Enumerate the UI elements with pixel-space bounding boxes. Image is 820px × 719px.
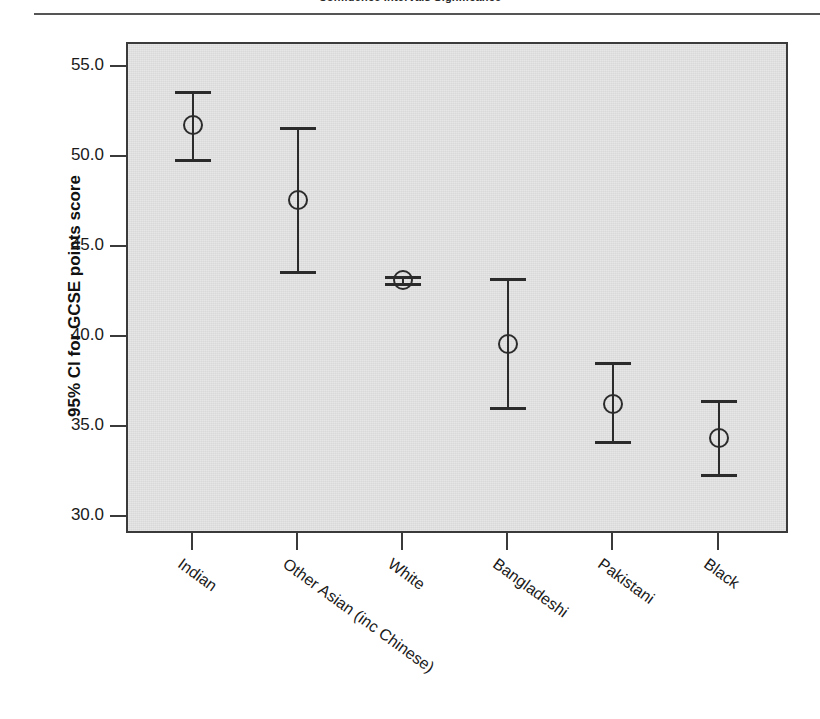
panel-texture <box>128 44 786 531</box>
y-tick-label-5: 55.0 <box>44 55 104 75</box>
error-bar-lower-cap <box>490 407 526 410</box>
error-bar-lower-cap <box>595 441 631 444</box>
error-bar-upper-cap <box>280 127 316 130</box>
x-tick-0 <box>191 533 193 550</box>
y-tick-label-3: 45.0 <box>44 235 104 255</box>
x-tick-label-4: Pakistani <box>595 555 658 608</box>
mean-marker <box>603 394 623 414</box>
mean-marker <box>393 270 413 290</box>
error-bar-lower-cap <box>701 474 737 477</box>
plot-area <box>126 42 788 533</box>
error-bar-upper-cap <box>595 362 631 365</box>
mean-marker <box>709 428 729 448</box>
error-bar-upper-cap <box>175 91 211 94</box>
y-axis-title: 95% CI for GCSE points score <box>65 46 85 546</box>
x-tick-3 <box>506 533 508 550</box>
x-tick-label-3: Bangladeshi <box>490 555 572 621</box>
y-tick-label-2: 40.0 <box>44 325 104 345</box>
x-tick-4 <box>611 533 613 550</box>
error-bar-upper-cap <box>701 400 737 403</box>
x-tick-label-2: White <box>385 555 429 594</box>
mean-marker <box>183 115 203 135</box>
y-tick-label-1: 35.0 <box>44 415 104 435</box>
x-tick-1 <box>296 533 298 550</box>
header-divider <box>34 13 820 15</box>
x-tick-5 <box>717 533 719 550</box>
y-tick-label-4: 50.0 <box>44 145 104 165</box>
top-caption-fragment: Confidence Intervals Significance <box>0 0 820 4</box>
error-bar-lower-cap <box>280 271 316 274</box>
mean-marker <box>288 190 308 210</box>
error-bar-lower-cap <box>175 159 211 162</box>
x-tick-label-5: Black <box>700 555 742 593</box>
mean-marker <box>498 334 518 354</box>
chart-page: Confidence Intervals Significance 95% CI… <box>0 0 820 719</box>
x-tick-2 <box>401 533 403 550</box>
y-tick-label-0: 30.0 <box>44 505 104 525</box>
x-tick-label-0: Indian <box>175 555 221 595</box>
error-bar-upper-cap <box>490 278 526 281</box>
